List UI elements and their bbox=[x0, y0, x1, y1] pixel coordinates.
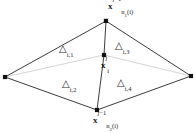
node-top-sub-index: 1 bbox=[124, 13, 127, 18]
mesh-stencil-figure: xj−1n1(i) xji xj−1n2(i) △i,1 △i,2 △i,3 △… bbox=[0, 0, 196, 133]
triangle-label-i-4: △i,4 bbox=[117, 78, 131, 88]
node-top-label: xj−1n1(i) bbox=[108, 2, 133, 13]
node-bottom-superscript: j−1 bbox=[98, 109, 107, 116]
node-top-superscript: j−1 bbox=[113, 0, 122, 2]
edge-left-top bbox=[5, 21, 106, 77]
node-center-symbol: x bbox=[101, 60, 106, 70]
node-bottom-sub-arg: (i) bbox=[112, 122, 118, 129]
node-bottom-label: xj−1n2(i) bbox=[93, 116, 118, 127]
triangle-4-symbol: △ bbox=[117, 77, 125, 88]
triangle-4-subscript: i,4 bbox=[125, 85, 132, 92]
edge-center-right bbox=[104, 55, 191, 76]
triangle-3-symbol: △ bbox=[115, 40, 123, 51]
node-right-marker bbox=[189, 74, 193, 78]
node-top-sub-arg: (i) bbox=[127, 8, 133, 15]
node-top-subscript: n1(i) bbox=[121, 8, 133, 15]
edge-bottom-left bbox=[5, 77, 97, 110]
triangle-2-subscript: i,2 bbox=[70, 86, 77, 93]
node-left-marker bbox=[3, 75, 7, 79]
triangle-3-subscript: i,3 bbox=[123, 48, 130, 55]
node-bottom-sub-index: 2 bbox=[109, 127, 112, 132]
triangle-2-symbol: △ bbox=[62, 78, 70, 89]
node-bottom-symbol: x bbox=[93, 115, 98, 125]
triangle-label-i-2: △i,2 bbox=[62, 79, 76, 89]
node-center-subscript: i bbox=[107, 67, 109, 74]
node-top-marker bbox=[104, 19, 108, 23]
edge-left-center bbox=[5, 55, 104, 77]
triangle-1-symbol: △ bbox=[59, 43, 67, 54]
node-center-label: xji bbox=[101, 61, 109, 70]
edge-top-center bbox=[104, 21, 106, 55]
triangle-1-subscript: i,1 bbox=[67, 51, 74, 58]
triangle-label-i-3: △i,3 bbox=[115, 41, 129, 51]
edge-right-bottom bbox=[97, 76, 191, 110]
node-top-symbol: x bbox=[108, 1, 113, 11]
triangle-label-i-1: △i,1 bbox=[59, 44, 73, 54]
node-bottom-subscript: n2(i) bbox=[106, 122, 118, 129]
